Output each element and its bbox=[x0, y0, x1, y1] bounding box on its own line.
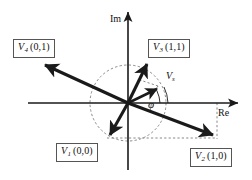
v4-states: (0,1) bbox=[28, 41, 50, 52]
vector-label-v3: V3(1,1) bbox=[148, 39, 190, 58]
vs-subscript: s bbox=[172, 75, 175, 83]
phi-angle-label: φ bbox=[148, 99, 154, 110]
vector-label-v1: V1(0,0) bbox=[56, 143, 98, 162]
vector-v1 bbox=[110, 103, 128, 135]
reference-vector-label: Vs bbox=[166, 71, 175, 83]
imaginary-axis-label: Im bbox=[110, 14, 121, 24]
v1-states: (0,0) bbox=[71, 145, 93, 156]
phi-arc bbox=[157, 91, 160, 103]
vector-v4 bbox=[45, 65, 128, 103]
vector-v2 bbox=[128, 103, 213, 135]
v3-states: (1,1) bbox=[163, 41, 185, 52]
v2-states: (1,0) bbox=[205, 150, 227, 161]
space-vector-diagram: Im Re Vs φ V4(0,1) V3(1,1) V1(0,0) V2(1,… bbox=[0, 0, 252, 180]
vector-label-v2: V2(1,0) bbox=[190, 148, 232, 167]
real-axis-label: Re bbox=[218, 108, 229, 118]
vector-label-v4: V4(0,1) bbox=[13, 39, 55, 58]
